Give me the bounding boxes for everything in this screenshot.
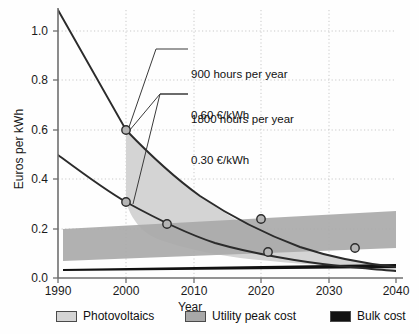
annotation-900-line1: 900 hours per year (191, 68, 288, 82)
legend-item-bulk-cost: Bulk cost (330, 308, 406, 324)
y-tick-0.6: 0.6 (14, 123, 48, 137)
legend-item-utility-peak-cost: Utility peak cost (185, 308, 296, 324)
y-axis-label: Euros per kWh (12, 69, 26, 229)
marker-2034-0125 (351, 244, 359, 252)
y-tick-0.2: 0.2 (14, 222, 48, 236)
x-tick-1990: 1990 (35, 284, 81, 298)
x-tick-2030: 2030 (306, 284, 352, 298)
y-tick-0.0: 0.0 (14, 271, 48, 285)
legend-item-photovoltaics: Photovoltaics (56, 308, 154, 324)
annotation-1800-line1: 1800 hours per year (191, 113, 294, 127)
x-tick-2020: 2020 (238, 284, 284, 298)
legend-label-photovoltaics: Photovoltaics (83, 309, 154, 323)
y-tick-1.0: 1.0 (14, 24, 48, 38)
annotation-1800-hours: 1800 hours per year 0.30 €/kWh (191, 86, 294, 194)
y-tick-0.4: 0.4 (14, 172, 48, 186)
annotation-1800-line2: 0.30 €/kWh (191, 154, 294, 168)
marker-2006-022 (163, 220, 171, 228)
legend-swatch-photovoltaics (56, 311, 77, 322)
x-tick-2040: 2040 (373, 284, 419, 298)
marker-2000-030 (122, 198, 130, 206)
legend-swatch-bulk-cost (330, 311, 351, 322)
chart-legend: Photovoltaics Utility peak cost Bulk cos… (56, 308, 408, 324)
legend-swatch-utility-peak-cost (185, 311, 206, 322)
x-tick-2010: 2010 (171, 284, 217, 298)
marker-2000-060 (122, 126, 130, 134)
marker-2020-024 (257, 215, 265, 223)
marker-2021-0105 (264, 248, 272, 256)
legend-label-bulk-cost: Bulk cost (357, 309, 406, 323)
annotation-leader-lines (128, 49, 188, 131)
chart-figure: Euros per kWh 1.0 0.8 0.6 0.4 0.2 0.0 19… (0, 0, 419, 334)
y-tick-0.8: 0.8 (14, 73, 48, 87)
x-tick-2000: 2000 (103, 284, 149, 298)
legend-label-utility-peak-cost: Utility peak cost (212, 309, 296, 323)
